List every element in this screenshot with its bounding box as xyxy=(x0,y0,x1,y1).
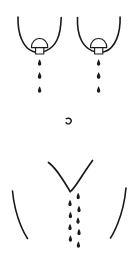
anatomical-figure-svg: Anatomical torso line drawing with fluid… xyxy=(0,0,138,258)
right-nipple: Right nipple rectangle xyxy=(95,48,103,54)
anatomical-figure-canvas: Anatomical torso line drawing with fluid… xyxy=(0,0,138,258)
left-nipple: Left nipple rectangle xyxy=(36,48,44,54)
